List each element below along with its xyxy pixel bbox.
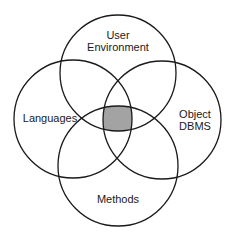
venn-diagram: User Environment Languages Object DBMS M… xyxy=(0,0,230,238)
label-methods: Methods xyxy=(97,193,140,205)
label-environment: Environment xyxy=(87,41,149,53)
label-languages: Languages xyxy=(23,112,78,124)
label-user: User xyxy=(106,29,130,41)
label-object: Object xyxy=(179,108,211,120)
label-dbms: DBMS xyxy=(179,120,211,132)
